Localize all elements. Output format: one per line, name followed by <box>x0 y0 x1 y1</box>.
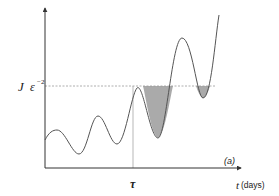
j-curve <box>45 15 219 154</box>
y-axis-label: J <box>18 79 25 94</box>
x-axis-units: (days) <box>241 180 265 190</box>
x-axis-var: t <box>236 179 240 191</box>
tau-label: τ <box>130 177 136 191</box>
threshold-label: ε <box>30 80 35 94</box>
panel-label: (a) <box>224 156 235 166</box>
threshold-exponent: −2 <box>37 78 45 86</box>
figure-canvas: J ε −2 τ (a) t (days) <box>0 0 279 196</box>
